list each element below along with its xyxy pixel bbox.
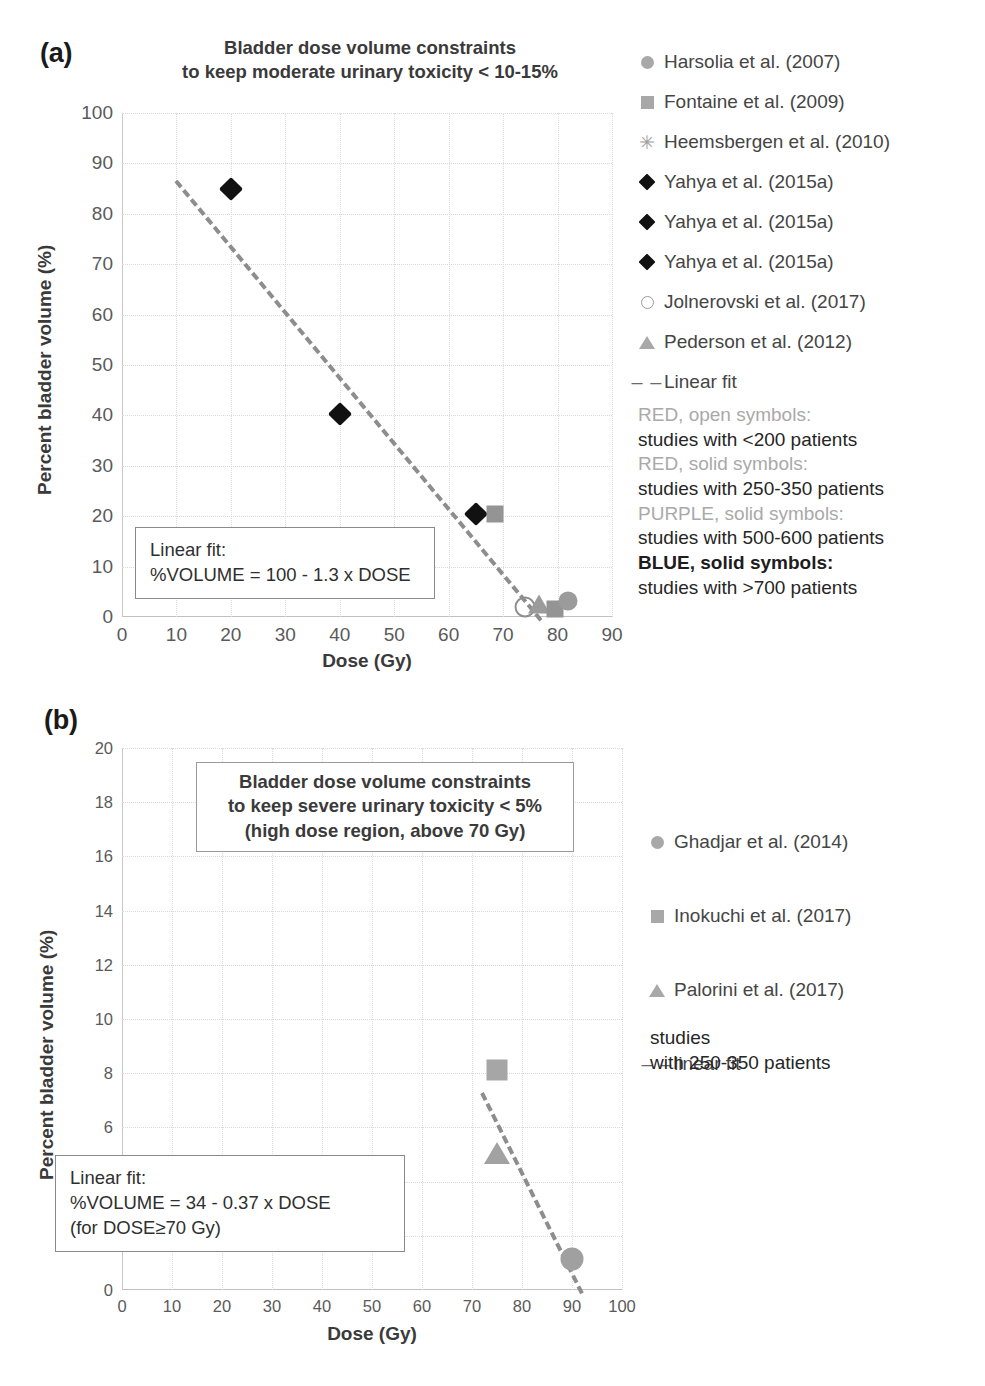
y-tick-label: 8: [104, 1064, 113, 1083]
legend-symbol: [630, 216, 664, 228]
legend-item[interactable]: Harsolia et al. (2007): [630, 42, 890, 82]
x-tick-label: 0: [117, 1297, 126, 1316]
legend-item-label: Linear fit: [664, 371, 737, 393]
legend-item[interactable]: ✳Heemsbergen et al. (2010): [630, 122, 890, 162]
note-heading: RED, open symbols:: [638, 403, 884, 428]
x-tick-label: 70: [463, 1297, 481, 1316]
marker-diamond: [464, 502, 488, 526]
panel-b-label: (b): [44, 705, 78, 736]
panel-a-fit-line2: %VOLUME = 100 - 1.3 x DOSE: [150, 562, 421, 587]
legend-item-label: Pederson et al. (2012): [664, 331, 852, 353]
gridline-horizontal: [122, 415, 612, 416]
marker-circle: [559, 591, 578, 610]
legend-item[interactable]: Yahya et al. (2015a): [630, 162, 890, 202]
gridline-horizontal: [122, 113, 612, 114]
panel-b-fit-line1: Linear fit:: [70, 1165, 391, 1190]
x-tick-label: 50: [384, 624, 405, 646]
square-icon: [641, 96, 654, 109]
legend-item[interactable]: Yahya et al. (2015a): [630, 202, 890, 242]
legend-item-label: Jolnerovski et al. (2017): [664, 291, 866, 313]
marker-diamond: [219, 177, 243, 201]
note-body: studies with >700 patients: [638, 576, 884, 601]
x-tick-label: 100: [608, 1297, 636, 1316]
legend-symbol: [640, 984, 674, 997]
triangle-icon: [649, 984, 665, 997]
diamond-icon: [639, 254, 656, 271]
note-heading: RED, solid symbols:: [638, 452, 884, 477]
note-body: studies with 500-600 patients: [638, 526, 884, 551]
x-tick-label: 90: [601, 624, 622, 646]
panel-b-title-line3: (high dose region, above 70 Gy): [211, 819, 559, 843]
y-tick-label: 60: [92, 304, 113, 326]
panel-a-fit-line1: Linear fit:: [150, 537, 421, 562]
y-tick-label: 10: [92, 556, 113, 578]
panel-a-x-axis-title: Dose (Gy): [122, 650, 612, 672]
y-tick-label: 14: [95, 901, 113, 920]
gridline-horizontal: [122, 516, 612, 517]
legend-item[interactable]: Inokuchi et al. (2017): [640, 879, 851, 953]
x-tick-label: 40: [329, 624, 350, 646]
gridline-horizontal: [122, 214, 612, 215]
x-tick-label: 30: [263, 1297, 281, 1316]
x-tick-label: 80: [513, 1297, 531, 1316]
gridline-vertical: [612, 113, 613, 617]
panel-a-y-axis-title: Percent bladder volume (%): [34, 245, 56, 495]
y-tick-label: 40: [92, 404, 113, 426]
legend-item[interactable]: Ghadjar et al. (2014): [640, 805, 851, 879]
y-tick-label: 18: [95, 793, 113, 812]
legend-symbol: ✳: [630, 133, 664, 152]
legend-item-label: Ghadjar et al. (2014): [674, 831, 848, 853]
panel-b-title-line1: Bladder dose volume constraints: [211, 770, 559, 794]
circle-icon: [651, 836, 664, 849]
diamond-icon: [639, 214, 656, 231]
gridline-horizontal: [122, 163, 612, 164]
panel-a-title-line2: to keep moderate urinary toxicity < 10-1…: [150, 60, 590, 84]
panel-b-linear-fit-box: Linear fit: %VOLUME = 34 - 0.37 x DOSE (…: [55, 1155, 405, 1252]
circle-icon: [641, 56, 654, 69]
legend-item-label: Inokuchi et al. (2017): [674, 905, 851, 927]
panel-a-title: Bladder dose volume constraints to keep …: [150, 36, 590, 85]
note-body: studies with <200 patients: [638, 428, 884, 453]
y-tick-label: 20: [92, 505, 113, 527]
gridline-horizontal: [122, 264, 612, 265]
legend-symbol: [630, 336, 664, 349]
square-icon: [651, 910, 664, 923]
note-line: with 250-350 patients: [650, 1051, 831, 1076]
legend-item-label: Yahya et al. (2015a): [664, 211, 834, 233]
gridline-vertical: [503, 113, 504, 617]
triangle-icon: [639, 336, 655, 349]
legend-item-label: Harsolia et al. (2007): [664, 51, 840, 73]
marker-triangle: [484, 1142, 510, 1164]
y-tick-label: 20: [95, 739, 113, 758]
legend-item[interactable]: Palorini et al. (2017): [640, 953, 851, 1027]
y-tick-label: 10: [95, 1010, 113, 1029]
panel-b-title-line2: to keep severe urinary toxicity < 5%: [211, 794, 559, 818]
legend-symbol: [640, 910, 674, 923]
dashed-line-icon: – –: [632, 372, 663, 392]
marker-circle: [561, 1247, 584, 1270]
legend-item[interactable]: Pederson et al. (2012): [630, 322, 890, 362]
legend-item-label: Palorini et al. (2017): [674, 979, 844, 1001]
y-tick-label: 6: [104, 1118, 113, 1137]
legend-item[interactable]: Jolnerovski et al. (2017): [630, 282, 890, 322]
panel-b-fit-line2: %VOLUME = 34 - 0.37 x DOSE: [70, 1190, 391, 1215]
legend-symbol: [630, 56, 664, 69]
x-tick-label: 70: [493, 624, 514, 646]
legend-item[interactable]: Yahya et al. (2015a): [630, 242, 890, 282]
x-tick-label: 40: [313, 1297, 331, 1316]
legend-item-label: Yahya et al. (2015a): [664, 251, 834, 273]
panel-b-title-box: Bladder dose volume constraints to keep …: [196, 762, 574, 852]
legend-item[interactable]: – –Linear fit: [630, 362, 890, 402]
y-tick-label: 0: [102, 606, 113, 628]
legend-symbol: [630, 256, 664, 268]
diamond-icon: [639, 174, 656, 191]
y-tick-label: 80: [92, 203, 113, 225]
x-tick-label: 30: [275, 624, 296, 646]
marker-square: [486, 505, 503, 522]
x-tick-label: 0: [117, 624, 128, 646]
y-tick-label: 100: [81, 102, 113, 124]
note-line: studies: [650, 1026, 831, 1051]
panel-a-label: (a): [40, 38, 72, 69]
asterisk-icon: ✳: [639, 133, 655, 152]
legend-item[interactable]: Fontaine et al. (2009): [630, 82, 890, 122]
